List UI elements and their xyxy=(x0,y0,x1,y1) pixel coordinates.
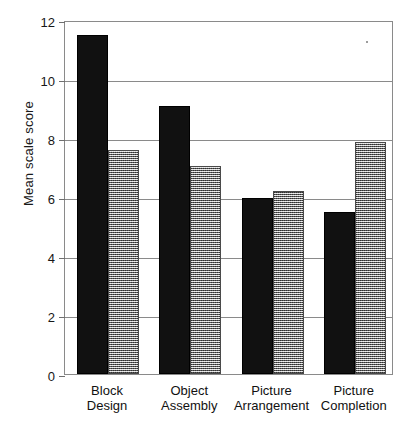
x-axis-category-label: Picture Completion xyxy=(321,383,387,413)
x-axis-category-label: Picture Arrangement xyxy=(234,383,309,413)
y-axis-tick xyxy=(59,258,65,259)
plot-area: 024681012 xyxy=(64,21,393,375)
y-axis-tick-label: 12 xyxy=(41,15,55,30)
bar xyxy=(273,191,304,374)
bar-chart: Mean scale score 024681012 Block DesignO… xyxy=(0,0,419,434)
y-axis-tick-label: 6 xyxy=(48,192,55,207)
y-axis-tick-label: 0 xyxy=(48,369,55,384)
y-axis-tick xyxy=(59,376,65,377)
y-axis-tick xyxy=(59,317,65,318)
bar xyxy=(324,212,355,374)
y-axis-title: Mean scale score xyxy=(21,74,36,234)
y-axis-tick-label: 4 xyxy=(48,251,55,266)
x-axis-category-label: Object Assembly xyxy=(161,383,217,413)
gridline xyxy=(65,140,392,141)
bar xyxy=(159,106,190,374)
bar xyxy=(242,198,273,374)
y-axis-tick xyxy=(59,140,65,141)
y-axis-tick-label: 2 xyxy=(48,310,55,325)
y-axis-tick xyxy=(59,22,65,23)
bar xyxy=(190,166,221,374)
x-axis-category-label: Block Design xyxy=(87,383,127,413)
y-axis-tick-label: 8 xyxy=(48,133,55,148)
gridline xyxy=(65,81,392,82)
y-axis-tick xyxy=(59,199,65,200)
bar xyxy=(355,142,386,374)
y-axis-tick xyxy=(59,81,65,82)
page-speck xyxy=(366,41,368,43)
bar xyxy=(77,35,108,374)
bar xyxy=(108,150,139,374)
y-axis-tick-label: 10 xyxy=(41,74,55,89)
